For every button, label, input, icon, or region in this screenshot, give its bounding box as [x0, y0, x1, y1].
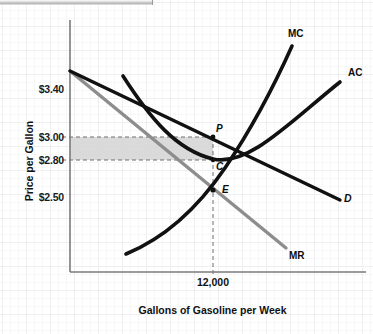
curve-label-mc: MC — [288, 28, 304, 39]
x-tick-label-12000: 12,000 — [178, 276, 248, 288]
curve-label-ac: AC — [348, 67, 362, 78]
point-label-p: P — [216, 123, 223, 134]
point-label-e: E — [222, 184, 229, 195]
x-axis-title: Gallons of Gasoline per Week — [70, 304, 355, 316]
y-tick-label-340: $3.40 — [16, 83, 64, 95]
curve-label-mr: MR — [289, 250, 305, 261]
point-p-marker — [211, 135, 216, 140]
point-c-marker — [211, 158, 215, 162]
y-axis-title: Price per Gallon — [23, 106, 35, 216]
economics-chart-figure: $3.40 $3.00 $2.80 $2.50 Price per Gallon… — [0, 0, 373, 334]
point-label-c: C — [216, 161, 223, 172]
point-e-marker — [210, 187, 215, 192]
economic-profit-rectangle — [70, 137, 213, 160]
curve-label-d: D — [344, 192, 352, 204]
